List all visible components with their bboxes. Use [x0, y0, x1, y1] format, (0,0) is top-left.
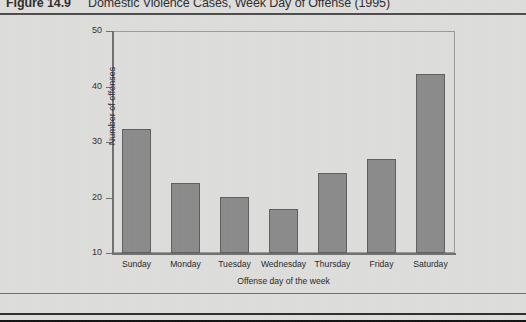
x-axis-label: Offense day of the week: [112, 276, 455, 286]
y-tick-label: 10: [92, 247, 102, 257]
bar-saturday: [416, 74, 445, 253]
bar-thursday: [318, 173, 347, 253]
bar-chart: 1020304050 Number of offenses SundayMond…: [0, 15, 526, 293]
x-tick-label-saturday: Saturday: [406, 259, 455, 269]
bar-series: [112, 31, 455, 253]
y-tick-label: 20: [92, 192, 102, 202]
figure-number: Figure 14.9: [6, 0, 71, 10]
figure-title: Domestic Violence Cases, Week Day of Off…: [88, 0, 390, 10]
y-tick-10: 10: [106, 253, 112, 254]
bar-tuesday: [220, 197, 249, 253]
page-rule-1: [0, 293, 526, 294]
bar-friday: [367, 159, 396, 253]
x-tick-label-thursday: Thursday: [308, 259, 357, 269]
x-tick-label-wednesday: Wednesday: [259, 259, 308, 269]
y-tick-label: 40: [92, 81, 102, 91]
x-tick-label-monday: Monday: [161, 259, 210, 269]
bar-monday: [171, 183, 200, 253]
figure-caption: Figure 14.9 Domestic Violence Cases, Wee…: [0, 0, 526, 13]
x-tick-label-tuesday: Tuesday: [210, 259, 259, 269]
y-tick-label: 30: [92, 136, 102, 146]
x-tick-label-friday: Friday: [357, 259, 406, 269]
x-axis-line: [112, 253, 456, 255]
y-tick-label: 50: [92, 25, 102, 35]
bar-wednesday: [269, 209, 298, 253]
page-rule-2: [0, 313, 526, 315]
bar-sunday: [122, 129, 151, 253]
x-tick-label-sunday: Sunday: [112, 259, 161, 269]
figure-page: Figure 14.9 Domestic Violence Cases, Wee…: [0, 0, 526, 322]
